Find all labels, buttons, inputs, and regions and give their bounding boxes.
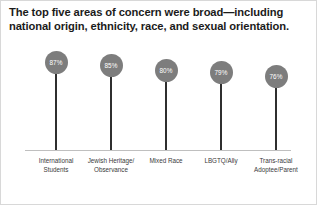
- category-label-line1: LBGTQ/Ally: [204, 157, 237, 164]
- lollipop-marker[interactable]: 80%: [155, 59, 178, 82]
- lollipop-marker[interactable]: 79%: [210, 61, 233, 84]
- slide: The top five areas of concern were broad…: [0, 0, 317, 205]
- lollipop-marker[interactable]: 85%: [100, 54, 123, 77]
- lollipop-stem: [165, 82, 166, 150]
- lollipop-value-label: 80%: [159, 67, 172, 74]
- category-label-line2: Adoptee/Parent: [239, 165, 313, 174]
- lollipop-stem: [275, 88, 276, 150]
- lollipop-value-label: 76%: [269, 73, 282, 80]
- category-label-line2: Observance: [74, 165, 148, 174]
- category-label: Trans-racial Adoptee/Parent: [239, 156, 313, 175]
- lollipop-item: 80% Mixed Race: [138, 49, 194, 205]
- lollipop-item: 79% LBGTQ/Ally: [193, 49, 249, 205]
- lollipop-stem: [55, 74, 56, 150]
- lollipop-item: 76% Trans-racial Adoptee/Parent: [248, 49, 304, 205]
- lollipop-value-label: 87%: [49, 59, 62, 66]
- lollipop-value-label: 79%: [214, 69, 227, 76]
- lollipop-marker[interactable]: 87%: [45, 51, 68, 74]
- lollipop-stem: [110, 77, 111, 150]
- category-label-line1: Mixed Race: [149, 157, 182, 164]
- lollipop-chart: 87% International Students 85% Jewish He…: [1, 49, 317, 205]
- lollipop-value-label: 85%: [104, 62, 117, 69]
- lollipop-item: 87% International Students: [28, 49, 84, 205]
- slide-title: The top five areas of concern were broad…: [9, 6, 305, 33]
- lollipop-marker[interactable]: 76%: [265, 65, 288, 88]
- lollipop-item: 85% Jewish Heritage/ Observance: [83, 49, 139, 205]
- lollipop-stem: [220, 84, 221, 150]
- category-label-line1: Jewish Heritage/: [88, 157, 135, 164]
- category-label-line1: Trans-racial: [259, 157, 292, 164]
- category-label-line1: International: [39, 157, 74, 164]
